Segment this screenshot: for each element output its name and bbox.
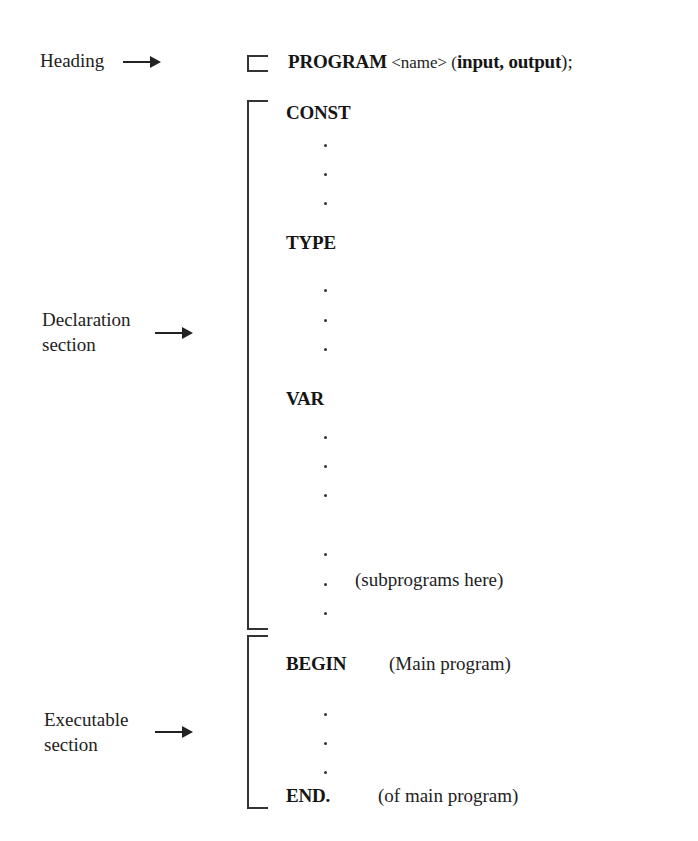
declaration-label-line1: Declaration bbox=[42, 309, 131, 331]
declaration-arrow-icon bbox=[155, 332, 191, 334]
heading-label: Heading bbox=[40, 50, 104, 72]
ellipsis-dot bbox=[324, 173, 327, 176]
executable-bracket bbox=[247, 635, 268, 809]
ellipsis-dot bbox=[324, 612, 327, 615]
ellipsis-dot bbox=[324, 319, 327, 322]
ellipsis-dot bbox=[324, 202, 327, 205]
ellipsis-dot bbox=[324, 144, 327, 147]
ellipsis-dot bbox=[324, 583, 327, 586]
ellipsis-dot bbox=[324, 713, 327, 716]
ellipsis-dot bbox=[324, 494, 327, 497]
program-keyword: PROGRAM bbox=[288, 51, 387, 72]
ellipsis-dot bbox=[324, 348, 327, 351]
program-end: ); bbox=[561, 51, 573, 72]
executable-label-line1: Executable bbox=[44, 709, 128, 731]
declaration-bracket bbox=[247, 100, 268, 630]
program-params: input, output bbox=[457, 51, 561, 72]
var-keyword: VAR bbox=[286, 388, 324, 410]
subprograms-note: (subprograms here) bbox=[355, 569, 503, 591]
ellipsis-dot bbox=[324, 742, 327, 745]
program-heading-line: PROGRAM <name> (input, output); bbox=[288, 51, 573, 73]
executable-label-line2: section bbox=[44, 734, 98, 756]
type-keyword: TYPE bbox=[286, 232, 336, 254]
const-keyword: CONST bbox=[286, 102, 350, 124]
ellipsis-dot bbox=[324, 436, 327, 439]
begin-keyword: BEGIN bbox=[286, 653, 346, 675]
end-keyword: END. bbox=[286, 785, 330, 807]
declaration-label-line2: section bbox=[42, 334, 96, 356]
heading-arrow-icon bbox=[123, 61, 159, 63]
heading-bracket bbox=[247, 55, 268, 72]
program-name: <name> ( bbox=[387, 53, 457, 72]
ellipsis-dot bbox=[324, 771, 327, 774]
executable-arrow-icon bbox=[155, 731, 191, 733]
ellipsis-dot bbox=[324, 289, 327, 292]
ellipsis-dot bbox=[324, 553, 327, 556]
end-note: (of main program) bbox=[378, 785, 518, 807]
begin-note: (Main program) bbox=[389, 653, 511, 675]
ellipsis-dot bbox=[324, 465, 327, 468]
